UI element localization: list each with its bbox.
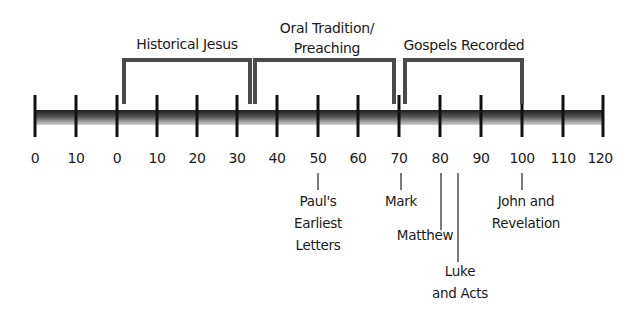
tick-label: 110	[550, 150, 575, 166]
event-label-line: Luke	[432, 260, 488, 282]
event-label-line: Mark	[385, 190, 417, 212]
timeline-diagram: Historical Jesus Oral Tradition/ Preachi…	[0, 0, 641, 318]
tick-label: 70	[391, 150, 408, 166]
event-matthew: Matthew	[397, 224, 453, 246]
period-bracket	[124, 60, 250, 104]
event-john-and-revelation: John and Revelation	[492, 190, 560, 234]
bracket-label-line: Oral Tradition/	[280, 18, 374, 38]
tick-label: 120	[587, 150, 612, 166]
tick-label: 0	[113, 150, 121, 166]
tick-label: 90	[473, 150, 490, 166]
event-label-line: Matthew	[397, 224, 453, 246]
event-label-line: Paul's	[294, 190, 342, 212]
bracket-label-line: Preaching	[280, 38, 374, 58]
bracket-label-oral-tradition: Oral Tradition/ Preaching	[280, 18, 374, 58]
tick-label: 10	[149, 150, 166, 166]
event-label-line: Revelation	[492, 212, 560, 234]
bracket-label-historical-jesus: Historical Jesus	[136, 34, 237, 54]
tick-label: 20	[189, 150, 206, 166]
tick-label: 60	[350, 150, 367, 166]
tick-label: 10	[68, 150, 85, 166]
period-bracket	[405, 60, 522, 104]
tick-label: 0	[31, 150, 39, 166]
event-label-line: Earliest	[294, 212, 342, 234]
bracket-label-gospels-recorded: Gospels Recorded	[404, 35, 525, 55]
period-brackets	[124, 60, 522, 104]
event-label-line: Letters	[294, 234, 342, 256]
tick-label: 80	[432, 150, 449, 166]
event-mark: Mark	[385, 190, 417, 212]
tick-label: 50	[310, 150, 327, 166]
tick-label: 100	[509, 150, 534, 166]
event-luke-and-acts: Luke and Acts	[432, 260, 488, 304]
event-label-line: John and	[492, 190, 560, 212]
event-pauls-earliest-letters: Paul's Earliest Letters	[294, 190, 342, 256]
tick-label: 40	[269, 150, 286, 166]
event-label-line: and Acts	[432, 282, 488, 304]
tick-label: 30	[229, 150, 246, 166]
